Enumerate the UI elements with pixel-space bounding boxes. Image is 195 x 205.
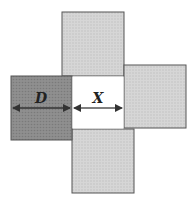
- bottom-square: [72, 129, 134, 193]
- d-label: D: [34, 90, 48, 106]
- right-square: [124, 65, 186, 128]
- diagram-canvas: D X: [0, 0, 195, 205]
- top-square: [62, 12, 124, 76]
- x-label: X: [92, 90, 105, 106]
